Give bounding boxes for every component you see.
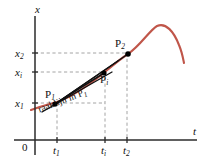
y-tick-x1-sub: 1 — [20, 102, 24, 111]
y-tick-label-x1: x1 — [15, 98, 24, 109]
x-tick-ti-sub: i — [104, 149, 106, 158]
x-tick-t2-sub: 2 — [126, 149, 130, 158]
point-label-pi: Pi — [100, 74, 108, 85]
graph-figure: x t 0 x1 xi x2 t1 ti t2 P1 Pi P2 raaklij… — [0, 0, 206, 163]
point-pi-sub: i — [106, 78, 108, 87]
point-label-p2: P2 — [115, 38, 125, 49]
y-tick-label-xi: xi — [15, 67, 22, 78]
x-tick-label-ti: ti — [101, 145, 106, 156]
origin-label: 0 — [22, 142, 28, 153]
x-axis-label: t — [193, 126, 196, 137]
y-tick-label-x2: x2 — [15, 48, 24, 59]
y-tick-xi-sub: i — [20, 71, 22, 80]
y-tick-x2-sub: 2 — [20, 52, 24, 61]
x-tick-label-t1: t1 — [53, 145, 60, 156]
point-p2-sub: 2 — [121, 42, 125, 51]
point-p2-marker — [125, 51, 131, 57]
x-tick-label-t2: t2 — [123, 145, 130, 156]
x-tick-t1-sub: 1 — [56, 149, 60, 158]
y-axis-label: x — [35, 4, 40, 15]
